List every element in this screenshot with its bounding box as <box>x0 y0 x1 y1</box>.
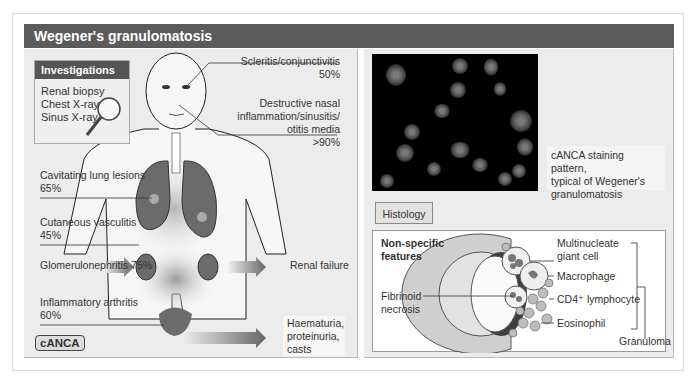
label-macrophage: Macrophage <box>557 270 615 283</box>
canca-micrograph <box>372 54 538 191</box>
label-renal-failure: Renal failure <box>290 259 349 272</box>
histology-tab: Histology <box>375 202 433 224</box>
label-scleritis: Scleritis/conjunctivitis 50% <box>240 55 340 81</box>
label-fibrinoid-necrosis: Fibrinoid necrosis <box>381 290 421 316</box>
label-kidney: Glomerulonephritis 75% <box>40 259 152 272</box>
micrograph-caption: cANCA staining pattern, typical of Wegen… <box>547 146 665 190</box>
label-arthritis: Inflammatory arthritis 60% <box>40 296 138 322</box>
label-nasal: Destructive nasal inflammation/sinusitis… <box>220 97 340 149</box>
label-eosinophil: Eosinophil <box>557 317 605 330</box>
label-skin: Cutaneous vasculitis 45% <box>40 216 136 242</box>
investigations-heading: Investigations <box>35 61 129 79</box>
label-urine: Haematuria, proteinuria, casts <box>283 316 345 356</box>
non-specific-heading: Non-specific features <box>381 237 444 263</box>
figure-title: Wegener's granulomatosis <box>24 24 674 48</box>
label-lung: Cavitating lung lesions 65% <box>40 169 145 195</box>
magnifying-glass-icon <box>83 95 123 139</box>
label-granuloma: Granuloma <box>619 335 671 348</box>
label-multinucleate-giant-cell: Multinucleate giant cell <box>557 237 619 263</box>
investigations-box: Investigations Renal biopsy Chest X-ray … <box>34 60 130 144</box>
canca-badge: cANCA <box>35 335 85 351</box>
histology-diagram: Non-specific features Fibrinoid necrosis… <box>372 230 666 352</box>
label-cd4-lymphocyte: CD4⁺ lymphocyte <box>557 293 640 306</box>
